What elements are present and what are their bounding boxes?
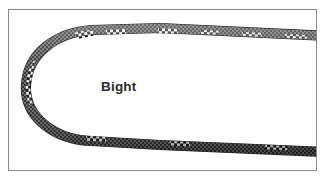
- rope-group: [20, 23, 327, 156]
- rope-bight-illustration: [0, 0, 327, 187]
- bight-label: Bight: [101, 79, 137, 94]
- figure-root: Bight: [0, 0, 327, 187]
- rope-outline: [26, 28, 327, 152]
